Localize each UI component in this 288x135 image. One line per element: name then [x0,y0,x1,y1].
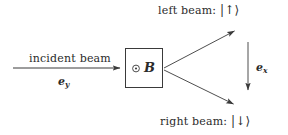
figure-canvas: incident beam ey B left beam: |↑⟩ right … [0,0,288,135]
right-beam-ket-down: |↓⟩ [231,114,250,128]
field-out-of-page-icon-dot [135,67,137,69]
left-beam-text: left beam: [158,4,216,17]
right-beam-label: right beam: |↓⟩ [160,115,250,127]
right-beam-text: right beam: [160,115,227,128]
e-symbol-x: e [256,61,263,74]
e-subscript-y: y [65,80,69,89]
incident-direction-vector-label: ey [58,76,69,89]
left-beam-arrow [164,31,235,68]
magnetic-field-label: B [144,61,155,74]
left-beam-ket-up: |↑⟩ [220,3,239,17]
right-beam-arrow [164,70,234,104]
incident-beam-label: incident beam [29,53,111,64]
e-symbol: e [58,75,65,88]
e-subscript-x: x [263,66,267,75]
left-beam-label: left beam: |↑⟩ [158,4,239,16]
x-axis-vector-label: ex [256,62,267,75]
